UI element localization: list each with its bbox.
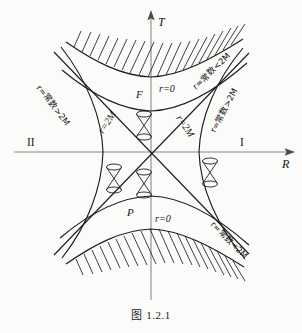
figure-container: T R I II F P r=0 r=0 r=2M r=2M r=常数>2M r… — [0, 0, 302, 333]
region-label-P: P — [126, 206, 134, 218]
region-label-II: II — [27, 136, 35, 148]
light-cone-past — [137, 169, 152, 198]
light-cone-future — [137, 111, 152, 140]
past-singularity-group — [66, 229, 245, 281]
light-cone-left — [107, 164, 122, 193]
curve-label-right-lower: r=常数>2M — [208, 86, 240, 134]
region-label-I: I — [240, 136, 244, 148]
kruskal-diagram: T R I II F P r=0 r=0 r=2M r=2M r=常数>2M r… — [0, 0, 302, 305]
axis-label-R: R — [281, 157, 290, 171]
figure-caption: 图 1.2.1 — [0, 306, 302, 322]
light-cone-right — [203, 158, 218, 187]
singularity-label-bottom: r=0 — [155, 213, 171, 224]
region-label-F: F — [135, 88, 143, 100]
curve-label-upper-left: r=常数>2M — [34, 83, 72, 127]
axis-label-T: T — [158, 15, 166, 29]
singularity-label-top: r=0 — [159, 83, 175, 94]
